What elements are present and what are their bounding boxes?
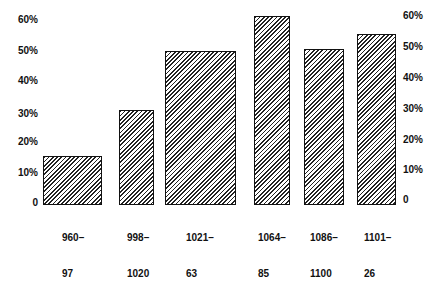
- y-tick-right-60: 60%: [403, 10, 437, 22]
- y-tick-left-30: 30%: [6, 108, 38, 120]
- x-label-line2: 26: [364, 268, 391, 280]
- x-label-1101-26: 1101– 26: [364, 208, 391, 281]
- x-label-line2: 1020: [127, 268, 149, 280]
- x-label-line2: 97: [62, 268, 84, 280]
- bar-1086-1100: [304, 49, 344, 205]
- x-label-998-1020: 998– 1020: [127, 208, 149, 281]
- y-tick-left-50: 50%: [6, 45, 38, 57]
- x-label-line1: 1064–: [258, 232, 286, 244]
- x-label-1064-85: 1064– 85: [258, 208, 286, 281]
- bar-1021-63: [165, 51, 236, 205]
- y-tick-left-60: 60%: [6, 14, 38, 26]
- x-label-line2: 1100: [310, 268, 338, 280]
- y-tick-right-20: 20%: [403, 134, 437, 146]
- x-label-960-97: 960– 97: [62, 208, 84, 281]
- x-label-1086-1100: 1086– 1100: [310, 208, 338, 281]
- bar-960-97: [43, 156, 102, 205]
- x-label-line1: 1021–: [186, 232, 214, 244]
- y-tick-right-10: 10%: [403, 164, 437, 176]
- x-label-line1: 1101–: [364, 232, 391, 244]
- x-label-line1: 960–: [62, 232, 84, 244]
- y-tick-left-0: 0: [6, 197, 38, 209]
- x-label-line2: 85: [258, 268, 286, 280]
- y-tick-right-40: 40%: [403, 72, 437, 84]
- y-tick-left-40: 40%: [6, 75, 38, 87]
- x-label-line1: 1086–: [310, 232, 338, 244]
- y-tick-left-20: 20%: [6, 136, 38, 148]
- y-tick-left-10: 10%: [6, 167, 38, 179]
- bar-1064-85: [254, 16, 290, 205]
- x-label-line1: 998–: [127, 232, 149, 244]
- bar-1101-26: [357, 34, 396, 205]
- y-tick-right-0: 0: [403, 194, 437, 206]
- x-label-1021-63: 1021– 63: [186, 208, 214, 281]
- y-tick-right-30: 30%: [403, 103, 437, 115]
- bar-998-1020: [119, 110, 154, 205]
- y-tick-right-50: 50%: [403, 41, 437, 53]
- x-label-line2: 63: [186, 268, 214, 280]
